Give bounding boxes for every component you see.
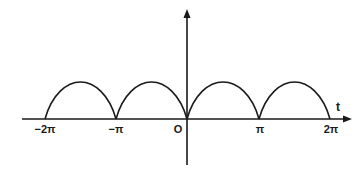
tick-neg-pi: −π xyxy=(109,123,124,135)
y-axis-arrow-icon xyxy=(184,9,191,18)
x-axis-label: t xyxy=(336,100,340,114)
curve-arch-2 xyxy=(116,82,187,119)
tick-pi: π xyxy=(256,123,265,135)
curve-arch-3 xyxy=(187,82,259,119)
curve-arch-4 xyxy=(259,82,330,119)
rectified-sine-chart: t −2π −π O π 2π xyxy=(0,0,364,177)
x-axis-arrow-icon xyxy=(343,116,352,123)
tick-2pi: 2π xyxy=(324,123,339,135)
tick-origin: O xyxy=(174,123,183,135)
curve-arch-1 xyxy=(45,82,116,119)
tick-neg-2pi: −2π xyxy=(35,123,57,135)
